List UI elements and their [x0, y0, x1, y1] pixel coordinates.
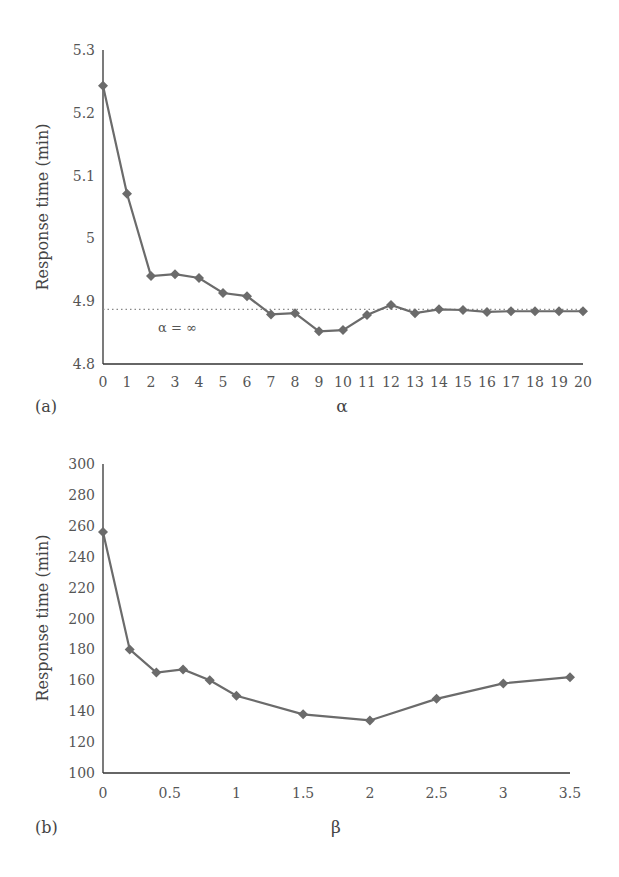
- y-tick-label: 260: [68, 518, 95, 534]
- chart-b-response-vs-beta: 10012014016018020022024026028030000.511.…: [33, 456, 581, 837]
- diamond-marker: [386, 300, 396, 310]
- x-tick-label: 7: [267, 374, 276, 390]
- x-tick-label: 0.5: [159, 785, 181, 801]
- x-tick-label: 1.5: [292, 785, 314, 801]
- y-axis-label: Response time (min): [33, 123, 52, 290]
- chart-a-response-vs-alpha: 4.84.955.15.25.3012345678910111213141516…: [33, 42, 592, 416]
- x-tick-label: 2: [147, 374, 156, 390]
- y-tick-label: 120: [68, 734, 95, 750]
- diamond-marker: [205, 675, 215, 685]
- y-tick-label: 240: [68, 549, 95, 565]
- figure: 4.84.955.15.25.3012345678910111213141516…: [0, 0, 619, 877]
- x-tick-label: 19: [550, 374, 568, 390]
- x-tick-label: 10: [334, 374, 352, 390]
- y-tick-label: 5: [86, 230, 95, 246]
- y-tick-label: 220: [68, 580, 95, 596]
- y-tick-label: 5.2: [73, 105, 95, 121]
- x-tick-label: 16: [478, 374, 496, 390]
- diamond-marker: [98, 81, 108, 91]
- x-tick-label: 0: [99, 374, 108, 390]
- diamond-marker: [298, 709, 308, 719]
- y-tick-label: 4.9: [73, 293, 95, 309]
- x-tick-label: 5: [219, 374, 228, 390]
- y-tick-label: 100: [68, 765, 95, 781]
- x-tick-label: 18: [526, 374, 544, 390]
- y-tick-label: 180: [68, 641, 95, 657]
- diamond-marker: [178, 664, 188, 674]
- diamond-marker: [194, 273, 204, 283]
- y-axis-label: Response time (min): [33, 534, 52, 701]
- x-tick-label: 9: [315, 374, 324, 390]
- x-tick-label: 3.5: [559, 785, 581, 801]
- y-tick-label: 140: [68, 703, 95, 719]
- diamond-marker: [458, 305, 468, 315]
- diamond-marker: [231, 691, 241, 701]
- diamond-marker: [578, 306, 588, 316]
- x-tick-label: 4: [195, 374, 204, 390]
- diamond-marker: [218, 288, 228, 298]
- x-tick-label: 3: [499, 785, 508, 801]
- diamond-marker: [554, 306, 564, 316]
- y-tick-label: 5.3: [73, 42, 95, 58]
- x-tick-label: 1: [123, 374, 132, 390]
- x-tick-label: 2: [365, 785, 374, 801]
- x-tick-label: 11: [358, 374, 376, 390]
- x-axis-label: β: [331, 817, 341, 837]
- x-tick-label: 1: [232, 785, 241, 801]
- diamond-marker: [432, 694, 442, 704]
- x-tick-label: 17: [502, 374, 520, 390]
- diamond-marker: [530, 306, 540, 316]
- x-tick-label: 2.5: [425, 785, 447, 801]
- reference-line-label: α = ∞: [158, 320, 197, 335]
- y-tick-label: 5.1: [73, 168, 95, 184]
- x-tick-label: 3: [171, 374, 180, 390]
- y-tick-label: 280: [68, 487, 95, 503]
- x-tick-label: 13: [406, 374, 424, 390]
- series-line: [103, 532, 570, 720]
- x-tick-label: 6: [243, 374, 252, 390]
- x-tick-label: 12: [382, 374, 400, 390]
- diamond-marker: [498, 678, 508, 688]
- diamond-marker: [565, 672, 575, 682]
- y-tick-label: 160: [68, 672, 95, 688]
- diamond-marker: [362, 310, 372, 320]
- x-tick-label: 20: [574, 374, 592, 390]
- diamond-marker: [506, 306, 516, 316]
- panel-label: (a): [35, 397, 57, 416]
- diamond-marker: [434, 304, 444, 314]
- diamond-marker: [482, 307, 492, 317]
- diamond-marker: [365, 715, 375, 725]
- diamond-marker: [122, 189, 132, 199]
- diamond-marker: [146, 271, 156, 281]
- panel-label: (b): [35, 818, 58, 837]
- series-line: [103, 86, 583, 332]
- x-tick-label: 8: [291, 374, 300, 390]
- y-tick-label: 300: [68, 456, 95, 472]
- x-tick-label: 0: [99, 785, 108, 801]
- y-tick-label: 4.8: [73, 356, 95, 372]
- diamond-marker: [98, 527, 108, 537]
- diamond-marker: [338, 325, 348, 335]
- x-axis-label: α: [336, 396, 348, 416]
- diamond-marker: [170, 269, 180, 279]
- x-tick-label: 15: [454, 374, 472, 390]
- x-tick-label: 14: [430, 374, 448, 390]
- y-tick-label: 200: [68, 611, 95, 627]
